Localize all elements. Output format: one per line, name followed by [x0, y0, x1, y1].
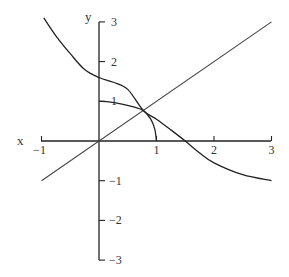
y-tick-label: 2 [111, 55, 117, 69]
x-tick-label: −1 [33, 143, 46, 157]
x-tick-label: 1 [154, 143, 160, 157]
x-tick-label: 3 [269, 143, 275, 157]
x-axis-label: x [17, 133, 24, 148]
y-tick-label: −2 [109, 213, 122, 227]
y-tick-label: −3 [109, 253, 122, 267]
y-tick-label: 1 [111, 94, 117, 108]
y-tick-label: −1 [109, 174, 122, 188]
axes: x y [17, 9, 271, 260]
y-tick-label: 3 [111, 15, 117, 29]
x-tick-label: 2 [211, 143, 217, 157]
chart: x y −1123321−1−2−3 [0, 0, 289, 277]
y-axis-label: y [85, 9, 92, 24]
